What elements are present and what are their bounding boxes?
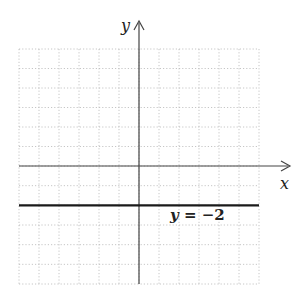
equation-value: = −2 xyxy=(179,206,225,224)
y-axis-label: y xyxy=(120,16,131,35)
x-axis-label: x xyxy=(280,174,289,193)
coordinate-plane: y x y = −2 xyxy=(0,0,307,307)
equation-label: y = −2 xyxy=(169,206,225,224)
